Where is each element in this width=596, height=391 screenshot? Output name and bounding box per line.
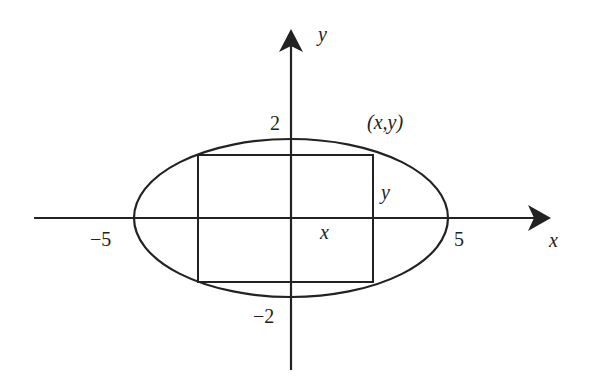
x-axis-label: x bbox=[549, 230, 558, 250]
rect-height-label: y bbox=[381, 182, 390, 202]
diagram-canvas bbox=[0, 0, 596, 391]
tick-label-y-2: 2 bbox=[270, 113, 280, 133]
tick-label-x-neg5: −5 bbox=[90, 229, 111, 249]
y-axis-label: y bbox=[318, 24, 327, 44]
point-label: (x,y) bbox=[367, 112, 403, 132]
rect-width-label: x bbox=[320, 222, 329, 242]
tick-label-y-neg2: −2 bbox=[253, 306, 274, 326]
tick-label-x-5: 5 bbox=[454, 229, 464, 249]
